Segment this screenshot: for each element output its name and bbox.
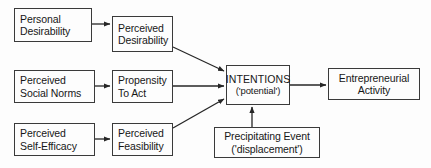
node-label-line2: ('potential'): [236, 85, 281, 98]
node-intentions: INTENTIONS ('potential'): [226, 65, 290, 105]
node-label-line1: INTENTIONS: [226, 73, 291, 86]
node-label-line1: Perceived: [118, 22, 164, 35]
edge-perceived-desirability-to-intentions: [173, 47, 224, 71]
node-label-line1: Personal: [20, 13, 61, 26]
node-label-line2: Feasibility: [118, 140, 164, 153]
node-entrepreneurial-activity: Entrepreneurial Activity: [328, 68, 420, 100]
node-precipitating-event: Precipitating Event ('displacement'): [214, 127, 320, 158]
node-label-line2: Self-Efficacy: [20, 140, 77, 153]
node-label-line2: To Act: [118, 87, 146, 100]
node-label-line2: ('displacement'): [231, 143, 302, 156]
node-label-line1: Precipitating Event: [224, 130, 310, 143]
node-perceived-feasibility: Perceived Feasibility: [112, 123, 173, 156]
edge-perceived-feasibility-to-intentions: [173, 99, 224, 128]
node-personal-desirability: Personal Desirability: [14, 8, 92, 42]
node-label-line1: Perceived: [20, 74, 66, 87]
node-label-line1: Perceived: [118, 127, 164, 140]
node-label-line2: Social Norms: [20, 87, 81, 100]
node-label-line1: Perceived: [20, 127, 66, 140]
node-propensity-to-act: Propensity To Act: [112, 70, 173, 103]
node-perceived-desirability: Perceived Desirability: [112, 16, 173, 52]
node-label-line1: Propensity: [118, 74, 167, 87]
node-perceived-self-efficacy: Perceived Self-Efficacy: [14, 123, 95, 156]
node-perceived-social-norms: Perceived Social Norms: [14, 70, 95, 103]
node-label-line1: Entrepreneurial: [339, 72, 409, 85]
node-label-line2: Desirability: [20, 25, 70, 38]
node-label-line2: Activity: [358, 84, 390, 97]
diagram-canvas: Personal Desirability Perceived Desirabi…: [0, 0, 431, 168]
node-label-line2: Desirability: [118, 34, 168, 47]
